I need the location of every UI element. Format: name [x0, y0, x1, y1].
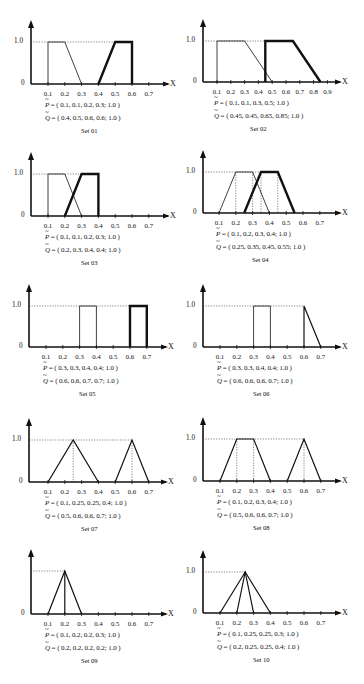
x-tick-label: 0.4	[266, 353, 275, 360]
q-formula: Q = ( 0.6, 0.6, 0.7, 0.7; 1.0 )	[43, 377, 119, 385]
x-tick-label: 0.2	[61, 620, 70, 627]
x-axis-arrow-icon	[335, 479, 342, 484]
p-values: ( 0.3, 0.3, 0.4, 0.4; 1.0 )	[228, 364, 291, 372]
y-tick-label-1: 1.0	[12, 435, 21, 443]
x-axis-arrow-icon	[161, 345, 168, 350]
q-values: ( 0.2, 0.2, 0.2, 0.2; 1.0 )	[57, 644, 120, 652]
set-label: Set 05	[79, 390, 96, 397]
x-tick-label: 0.5	[111, 222, 120, 229]
x-tick-label: 0.6	[126, 353, 135, 360]
x-tick-label: 0.6	[300, 353, 309, 360]
x-tick-label: 0.3	[77, 488, 86, 495]
membership-p	[219, 172, 269, 213]
p-formula: P = ( 0.3, 0.3, 0.4, 0.4; 1.0 )	[43, 364, 118, 372]
x-tick-label: 0.7	[143, 353, 152, 360]
q-symbol: Q	[45, 114, 50, 122]
x-tick-label: 0.8	[309, 88, 318, 95]
y-tick-label-0: 0	[193, 608, 197, 616]
x-axis-arrow-icon	[163, 214, 170, 219]
y-axis-arrow-icon	[26, 418, 32, 426]
y-axis-arrow-icon	[200, 150, 206, 158]
plot-area: 0.10.20.30.40.50.60.7	[182, 275, 364, 375]
x-axis-label: X	[342, 77, 348, 86]
membership-q	[65, 174, 99, 216]
p-formula: P = ( 0.1, 0.2, 0.2, 0.3; 1.0 )	[45, 631, 120, 639]
x-tick-label: 0.2	[227, 88, 236, 95]
membership-p	[254, 306, 271, 347]
x-tick-label: 0.5	[111, 488, 120, 495]
q-values: ( 0.6, 0.6, 0.7, 0.7; 1.0 )	[55, 377, 118, 385]
x-tick-label: 0.4	[94, 222, 103, 229]
membership-p	[48, 42, 82, 84]
x-tick-label: 0.2	[61, 90, 70, 97]
y-axis-arrow-icon	[28, 152, 34, 160]
x-tick-label: 0.2	[232, 219, 241, 226]
chart-panel-set08: 0.10.20.30.40.50.60.7 1.0 0 X P = ( 0.1,…	[182, 410, 364, 545]
x-tick-label: 0.4	[266, 619, 275, 626]
x-axis-label: X	[170, 211, 176, 220]
x-axis-arrow-icon	[161, 612, 168, 617]
x-tick-label: 0.7	[145, 222, 154, 229]
y-axis-arrow-icon	[200, 550, 206, 558]
membership-q	[265, 41, 320, 82]
x-tick-label: 0.6	[128, 620, 137, 627]
y-tick-label-1: 1.0	[186, 434, 195, 442]
y-tick-label-1: 1.0	[186, 567, 195, 575]
membership-q	[304, 306, 321, 347]
y-tick-label-1: 1.0	[186, 167, 195, 175]
membership-q	[244, 172, 294, 213]
p-formula: P = ( 0.1, 0.25, 0.25, 0.3; 1.0 )	[217, 630, 299, 638]
x-tick-label: 0.6	[282, 88, 291, 95]
x-tick-label: 0.7	[296, 88, 305, 95]
q-values: ( 0.2, 0.25, 0.25, 0.4; 1.0 )	[229, 643, 299, 651]
p-formula: P = ( 0.1, 0.2, 0.3, 0.4; 1.0 )	[217, 498, 292, 506]
set-label: Set 06	[253, 390, 270, 397]
q-formula: Q = ( 0.4, 0.5, 0.6, 0.6; 1.0 )	[45, 114, 121, 122]
y-tick-label-0: 0	[19, 477, 23, 485]
q-symbol: Q	[214, 112, 219, 120]
y-tick-label-1: 1.0	[12, 301, 21, 309]
q-symbol: Q	[45, 512, 50, 520]
q-symbol: Q	[217, 377, 222, 385]
p-values: ( 0.1, 0.25, 0.25, 0.3; 1.0 )	[228, 630, 298, 638]
y-tick-label-0: 0	[21, 609, 25, 617]
x-tick-label: 0.7	[145, 488, 154, 495]
y-tick-label-1: 1.0	[14, 37, 23, 45]
x-tick-label: 0.5	[283, 487, 292, 494]
x-tick-label: 0.4	[254, 88, 263, 95]
q-formula: Q = ( 0.2, 0.25, 0.25, 0.4; 1.0 )	[217, 643, 299, 651]
x-tick-label: 0.9	[323, 88, 332, 95]
plot-area: 0.10.20.30.40.50.60.7	[0, 410, 182, 510]
x-tick-label: 0.3	[240, 88, 249, 95]
x-tick-label: 0.6	[300, 619, 309, 626]
set-label: Set 03	[81, 259, 98, 266]
q-values: ( 0.5, 0.6, 0.6, 0.7; 1.0 )	[57, 512, 120, 520]
p-formula: P = ( 0.1, 0.2, 0.3, 0.4; 1.0 )	[216, 230, 291, 238]
x-axis-arrow-icon	[335, 80, 342, 85]
x-tick-label: 0.3	[249, 619, 258, 626]
p-formula: P = ( 0.1, 0.1, 0.3, 0.5; 1.0 )	[214, 99, 289, 107]
x-axis-label: X	[342, 476, 348, 485]
x-tick-label: 0.3	[249, 487, 258, 494]
q-formula: Q = ( 0.5, 0.6, 0.6, 0.7; 1.0 )	[217, 511, 293, 519]
x-axis-arrow-icon	[335, 345, 342, 350]
plot-area: 0.10.20.30.40.50.60.7	[0, 545, 182, 645]
x-tick-label: 0.6	[128, 488, 137, 495]
q-symbol: Q	[217, 643, 222, 651]
p-values: ( 0.1, 0.2, 0.2, 0.3; 1.0 )	[56, 631, 119, 639]
set-label: Set 07	[81, 525, 98, 532]
q-values: ( 0.2, 0.3, 0.4, 0.4; 1.0 )	[57, 246, 120, 254]
y-tick-label-0: 0	[193, 476, 197, 484]
x-tick-label: 0.6	[128, 222, 137, 229]
p-formula: P = ( 0.1, 0.1, 0.2, 0.3; 1.0 )	[45, 101, 120, 109]
chart-panel-set05: 0.10.20.30.40.50.60.7 1.0 0 X P = ( 0.3,…	[0, 275, 182, 410]
p-values: ( 0.1, 0.2, 0.3, 0.4; 1.0 )	[228, 498, 291, 506]
y-axis-arrow-icon	[28, 549, 34, 557]
q-values: ( 0.45, 0.45, 0.65, 0.85; 1.0 )	[226, 112, 303, 120]
q-symbol: Q	[43, 377, 48, 385]
x-tick-label: 0.5	[282, 219, 291, 226]
x-tick-label: 0.4	[94, 488, 103, 495]
x-tick-label: 0.3	[248, 219, 257, 226]
p-values: ( 0.1, 0.25, 0.25, 0.4; 1.0 )	[56, 499, 126, 507]
x-tick-label: 0.6	[300, 487, 309, 494]
